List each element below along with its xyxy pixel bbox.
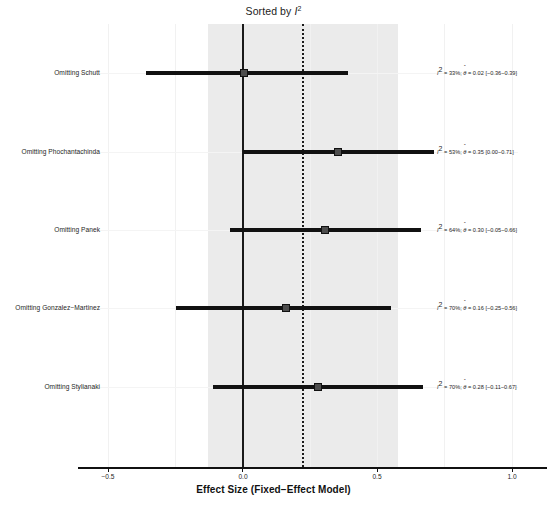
plot-panel: Omitting Schutt I2 = 33%; ˆθ = 0.02 [−0.… xyxy=(0,0,547,506)
theta-symbol: θ xyxy=(463,149,466,155)
x-axis-tick xyxy=(108,468,109,472)
study-annotation: I2 = 70%; ˆθ = 0.16 [−0.25−0.56] xyxy=(437,305,517,311)
study-annotation: I2 = 64%; ˆθ = 0.30 [−0.05−0.66] xyxy=(437,227,517,233)
theta-symbol: θ xyxy=(463,70,466,76)
estimate-and-ci: = 0.35 [0.00−0.71] xyxy=(466,149,513,155)
i-squared-value: = 33%; xyxy=(443,70,464,76)
hat-accent: ˆ xyxy=(463,65,466,70)
gridline-vertical xyxy=(377,24,378,467)
pooled-estimate-line xyxy=(302,24,304,467)
x-axis-title: Effect Size (Fixed−Effect Model) xyxy=(0,484,547,495)
study-label: Omitting Phochantachinda xyxy=(0,148,100,155)
hat-accent: ˆ xyxy=(463,300,466,305)
estimate-and-ci: = 0.02 [−0.36−0.39] xyxy=(466,70,517,76)
theta-symbol: θ xyxy=(463,305,466,311)
x-axis-tick-label: 1.0 xyxy=(507,473,516,480)
hat-accent: ˆ xyxy=(463,222,466,227)
point-estimate-marker xyxy=(282,304,290,312)
study-annotation: I2 = 53%; ˆθ = 0.35 [0.00−0.71] xyxy=(437,149,514,155)
theta-hat: ˆθ xyxy=(463,384,466,390)
theta-hat: ˆθ xyxy=(463,305,466,311)
gridline-vertical xyxy=(512,24,513,467)
i-squared-value: = 70%; xyxy=(443,305,464,311)
hat-accent: ˆ xyxy=(463,379,466,384)
i-squared-value: = 53%; xyxy=(443,149,464,155)
point-estimate-marker xyxy=(314,383,322,391)
gridline-vertical xyxy=(108,24,109,467)
estimate-and-ci: = 0.30 [−0.05−0.66] xyxy=(466,227,517,233)
x-axis-line xyxy=(78,467,547,469)
study-label: Omitting Schutt xyxy=(0,69,100,76)
gridline-vertical xyxy=(310,24,311,467)
i-squared-value: = 70%; xyxy=(443,384,464,390)
point-estimate-marker xyxy=(321,226,329,234)
x-axis-tick xyxy=(512,468,513,472)
theta-symbol: θ xyxy=(463,227,466,233)
gridline-vertical xyxy=(444,24,445,467)
study-annotation: I2 = 70%; ˆθ = 0.28 [−0.11−0.67] xyxy=(437,384,517,390)
null-effect-line xyxy=(242,24,244,467)
study-annotation: I2 = 33%; ˆθ = 0.02 [−0.36−0.39] xyxy=(437,70,517,76)
x-axis-tick-label: −0.5 xyxy=(101,473,114,480)
theta-symbol: θ xyxy=(463,384,466,390)
study-label: Omitting Panek xyxy=(0,226,100,233)
hat-accent: ˆ xyxy=(463,144,466,149)
x-axis-tick xyxy=(242,468,243,472)
point-estimate-marker xyxy=(334,148,342,156)
study-label: Omitting Gonzalez−Martinez xyxy=(0,304,100,311)
i-squared-value: = 64%; xyxy=(443,227,464,233)
forest-plot: Sorted by I2 Omitting Schutt I2 = 33%; ˆ… xyxy=(0,0,547,506)
x-axis-tick-label: 0.5 xyxy=(372,473,381,480)
point-estimate-marker xyxy=(240,69,248,77)
study-label: Omitting Stylianaki xyxy=(0,383,100,390)
gridline-vertical xyxy=(175,24,176,467)
theta-hat: ˆθ xyxy=(463,149,466,155)
x-axis-tick xyxy=(377,468,378,472)
theta-hat: ˆθ xyxy=(463,227,466,233)
estimate-and-ci: = 0.28 [−0.11−0.67] xyxy=(466,384,516,390)
theta-hat: ˆθ xyxy=(463,70,466,76)
x-axis-tick-label: 0.0 xyxy=(238,473,247,480)
estimate-and-ci: = 0.16 [−0.25−0.56] xyxy=(466,305,517,311)
